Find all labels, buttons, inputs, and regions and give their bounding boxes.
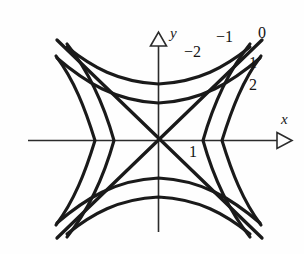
contour-label-two: 2 xyxy=(249,77,257,93)
hyperbola-contour-figure: y x −2 −1 0 1 2 1 xyxy=(0,0,304,254)
y-axis-label: y xyxy=(170,26,177,41)
x-axis-arrowhead-icon xyxy=(277,133,292,149)
x-axis-label: x xyxy=(281,112,288,127)
contour-label-zero: 0 xyxy=(258,25,266,41)
y-axis-arrowhead-icon xyxy=(151,32,167,46)
contour-label-neg2: −2 xyxy=(184,44,201,60)
contour-label-neg1: −1 xyxy=(216,29,233,45)
contour-label-one: 1 xyxy=(249,55,257,71)
x-axis-tick-label-one: 1 xyxy=(189,144,197,160)
